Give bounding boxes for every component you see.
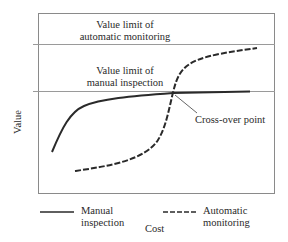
upper-limit-label-line1: Value limit of xyxy=(50,19,200,31)
legend-manual-inspection: Manual inspection xyxy=(81,205,124,229)
legend-manual-line2: inspection xyxy=(81,217,124,229)
lower-limit-label: Value limit of manual inspection xyxy=(50,65,200,89)
y-axis-label: Value xyxy=(12,110,24,134)
upper-limit-label: Value limit of automatic monitoring xyxy=(50,19,200,43)
lower-limit-label-line2: manual inspection xyxy=(50,77,200,89)
x-axis-label: Cost xyxy=(145,223,164,235)
lower-limit-label-line1: Value limit of xyxy=(50,65,200,77)
legend-automatic-line2: monitoring xyxy=(203,217,250,229)
legend-automatic-monitoring: Automatic monitoring xyxy=(203,205,250,229)
upper-limit-label-line2: automatic monitoring xyxy=(50,31,200,43)
legend-automatic-line1: Automatic xyxy=(203,205,250,217)
legend-manual-line1: Manual xyxy=(81,205,124,217)
crossover-pointer-line xyxy=(175,95,197,113)
crossover-annotation: Cross-over point xyxy=(195,114,265,126)
